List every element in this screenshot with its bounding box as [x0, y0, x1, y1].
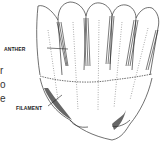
filament-label: FILAMENT	[16, 105, 42, 111]
flower-stamen-diagram: ANTHER FILAMENT r o e	[0, 0, 168, 143]
cropped-text-fragment: r	[0, 66, 3, 76]
anther-label: ANTHER	[4, 46, 25, 52]
stamen-illustration	[0, 0, 168, 143]
cropped-text-fragment: o	[0, 80, 6, 90]
anther-leader-line	[47, 48, 68, 49]
cropped-text-fragment: e	[0, 94, 6, 104]
